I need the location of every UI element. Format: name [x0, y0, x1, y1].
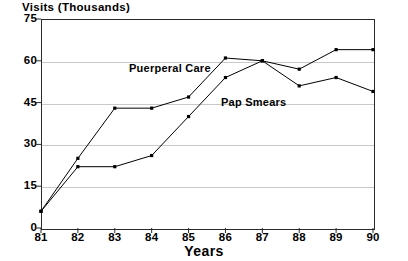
series-label-pap-smears: Pap Smears: [221, 96, 286, 108]
series-label-puerperal-care: Puerperal Care: [129, 62, 211, 74]
data-point-marker: [261, 59, 264, 62]
plot-series-layer: [0, 0, 408, 261]
data-point-marker: [187, 95, 190, 98]
data-point-marker: [150, 154, 153, 157]
data-point-marker: [113, 107, 116, 110]
data-point-marker: [187, 115, 190, 118]
chart-x-axis-title: Years: [0, 243, 408, 259]
data-point-marker: [335, 48, 338, 51]
data-point-marker: [371, 48, 374, 51]
data-point-marker: [76, 165, 79, 168]
data-point-marker: [371, 90, 374, 93]
data-point-marker: [113, 165, 116, 168]
data-point-marker: [150, 107, 153, 110]
data-point-marker: [224, 56, 227, 59]
series-line-pap-smears: [41, 61, 373, 211]
data-point-marker: [76, 157, 79, 160]
data-point-marker: [335, 76, 338, 79]
data-point-marker: [224, 76, 227, 79]
data-point-marker: [298, 68, 301, 71]
data-point-marker: [298, 84, 301, 87]
line-chart: Visits (Thousands) 01530456075 818283848…: [0, 0, 408, 261]
data-point-marker: [39, 210, 42, 213]
